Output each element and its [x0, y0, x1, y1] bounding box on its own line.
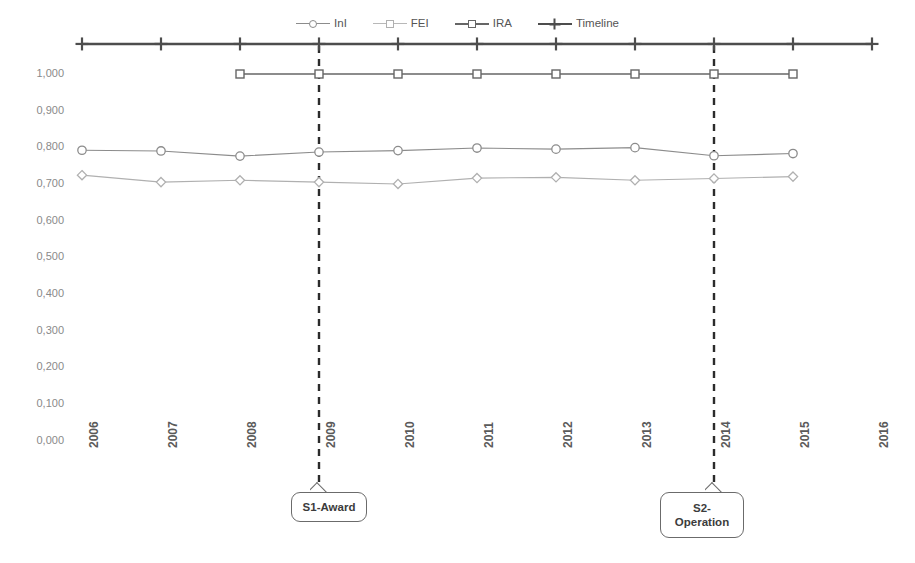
x-tick-label: 2009 — [325, 421, 337, 448]
y-tick-label: 0,100 — [18, 398, 64, 409]
data-point-marker — [552, 145, 560, 153]
data-point-marker — [788, 172, 797, 181]
data-point-marker — [236, 70, 244, 78]
data-point-marker — [78, 146, 86, 154]
data-point-marker — [552, 70, 560, 78]
x-tick-label: 2014 — [720, 421, 732, 448]
annotation-label-s1: S1-Award — [303, 500, 356, 514]
data-point-marker — [315, 70, 323, 78]
series-ini — [78, 143, 797, 160]
x-tick-label: 2013 — [641, 421, 653, 448]
data-point-marker — [235, 176, 244, 185]
annotation-label-s2-line2: Operation — [675, 515, 729, 529]
y-tick-label: 0,200 — [18, 361, 64, 372]
data-point-marker — [236, 152, 244, 160]
data-point-marker — [156, 178, 165, 187]
chart-container: InI FEI IRA Timeline 0,0000,1000,2000,30… — [0, 0, 915, 563]
y-tick-label: 0,000 — [18, 435, 64, 446]
y-tick-label: 0,500 — [18, 251, 64, 262]
plot-area — [0, 0, 915, 563]
annotation-callout-s2-operation[interactable]: S2- Operation — [660, 492, 744, 538]
data-point-marker — [393, 179, 402, 188]
y-tick-label: 0,800 — [18, 141, 64, 152]
y-tick-label: 0,300 — [18, 325, 64, 336]
data-point-marker — [789, 149, 797, 157]
y-tick-label: 0,400 — [18, 288, 64, 299]
data-point-marker — [473, 70, 481, 78]
data-point-marker — [631, 70, 639, 78]
y-tick-label: 0,900 — [18, 105, 64, 116]
x-tick-label: 2016 — [878, 421, 890, 448]
x-tick-label: 2006 — [88, 421, 100, 448]
series-timeline — [76, 37, 879, 50]
data-point-marker — [315, 148, 323, 156]
data-point-marker — [789, 70, 797, 78]
annotation-callout-s1-award[interactable]: S1-Award — [291, 492, 367, 522]
series-fei — [77, 171, 797, 189]
series-line — [82, 175, 793, 184]
x-tick-label: 2011 — [483, 422, 495, 448]
data-point-marker — [631, 143, 639, 151]
x-tick-label: 2007 — [167, 421, 179, 448]
data-point-marker — [394, 70, 402, 78]
data-point-marker — [473, 144, 481, 152]
series-line — [82, 148, 793, 156]
data-point-marker — [394, 146, 402, 154]
x-tick-label: 2015 — [799, 421, 811, 448]
data-point-marker — [551, 173, 560, 182]
x-tick-label: 2012 — [562, 421, 574, 448]
x-tick-label: 2010 — [404, 421, 416, 448]
data-point-marker — [472, 173, 481, 182]
series-ira — [236, 70, 797, 78]
data-point-marker — [710, 152, 718, 160]
data-point-marker — [630, 176, 639, 185]
data-point-marker — [77, 171, 86, 180]
x-tick-label: 2008 — [246, 421, 258, 448]
y-tick-label: 0,700 — [18, 178, 64, 189]
data-point-marker — [157, 147, 165, 155]
data-point-marker — [710, 70, 718, 78]
data-point-marker — [709, 174, 718, 183]
data-point-marker — [314, 178, 323, 187]
annotation-label-s2-line1: S2- — [693, 501, 711, 515]
y-tick-label: 0,600 — [18, 215, 64, 226]
y-tick-label: 1,000 — [18, 68, 64, 79]
